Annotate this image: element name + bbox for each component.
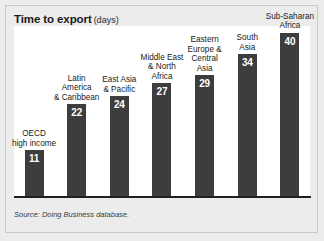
bar-category-label: Sub-Saharan Africa	[263, 12, 317, 31]
bar-column[interactable]: East Asia & Pacific 24	[99, 12, 139, 196]
bar-value-label: 11	[29, 154, 39, 196]
bar-column[interactable]: South Asia 34	[227, 12, 267, 196]
axis-baseline	[14, 196, 311, 198]
bar-rect[interactable]: 40	[280, 33, 299, 196]
bar-value-label: 40	[285, 37, 296, 196]
bar-column[interactable]: Latin America & Caribbean 22	[57, 12, 97, 196]
bar-rect[interactable]: 34	[238, 54, 257, 196]
source-note: Source: Doing Business database.	[14, 210, 129, 219]
bar-rect[interactable]: 22	[67, 104, 86, 196]
bar-category-label: OECD high income	[7, 129, 61, 148]
bar-column[interactable]: OECD high income 11	[14, 12, 54, 196]
bar-category-label: South Asia	[220, 33, 274, 52]
bar-value-label: 29	[199, 79, 210, 196]
bar-rect[interactable]: 29	[195, 75, 214, 196]
chart-figure: Time to export(days) OECD high income 11…	[0, 0, 324, 241]
bar-value-label: 34	[242, 58, 253, 196]
bar-value-label: 22	[71, 108, 82, 196]
bar-rect[interactable]: 27	[152, 83, 171, 196]
bar-rect[interactable]: 11	[25, 150, 44, 196]
bar-rect[interactable]: 24	[110, 96, 129, 196]
bar-column[interactable]: Eastern Europe & Central Asia 29	[185, 12, 225, 196]
bar-series: OECD high income 11 Latin America & Cari…	[14, 12, 310, 196]
bar-value-label: 27	[157, 87, 168, 196]
bar-column[interactable]: Sub-Saharan Africa 40	[270, 12, 310, 196]
bar-column[interactable]: Middle East & North Africa 27	[142, 12, 182, 196]
bar-value-label: 24	[114, 100, 125, 196]
